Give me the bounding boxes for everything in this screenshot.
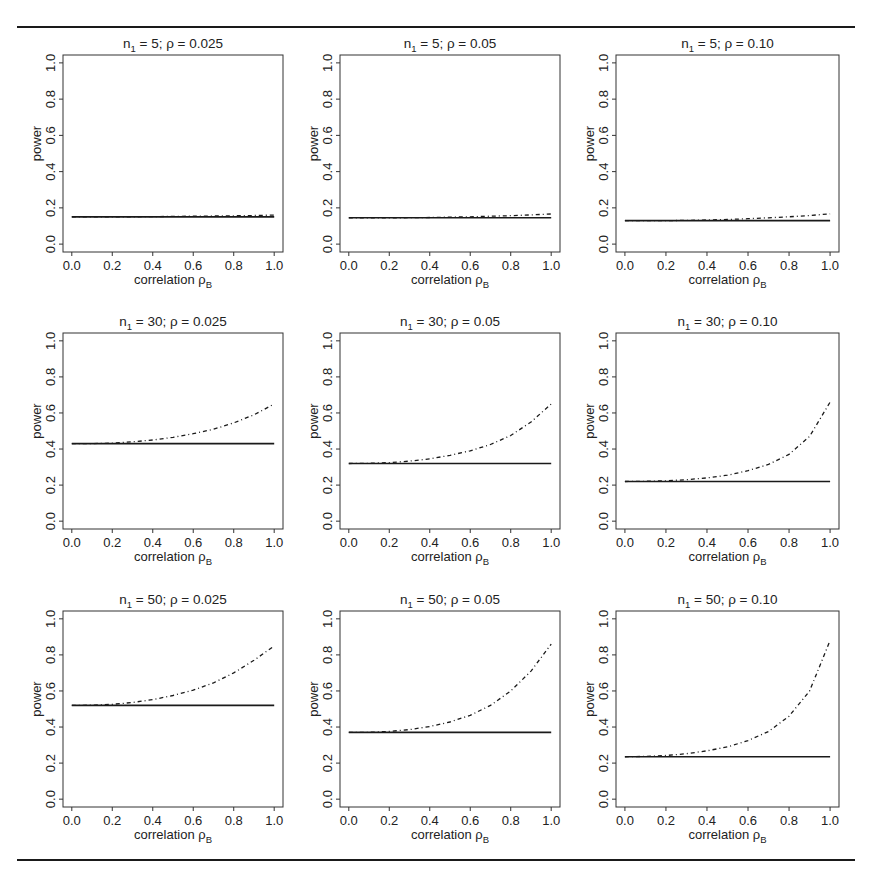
x-tick-label: 1.0 (542, 813, 560, 828)
y-tick-label: 0.2 (320, 199, 335, 217)
x-tick-label: 0.0 (340, 258, 358, 273)
y-tick-label: 0.4 (596, 163, 611, 181)
series-dashed (625, 641, 830, 757)
y-tick-label: 0.8 (43, 646, 58, 664)
y-tick-label: 0.2 (43, 199, 58, 217)
plot-frame (616, 55, 839, 252)
y-tick-label: 0.0 (596, 235, 611, 253)
panel-5: n1 = 30; ρ = 0.050.00.20.40.60.81.00.00.… (306, 314, 560, 567)
y-tick-label: 0.6 (320, 404, 335, 422)
x-tick-label: 0.6 (461, 813, 479, 828)
x-tick-label: 1.0 (265, 535, 283, 550)
y-tick-label: 0.2 (320, 476, 335, 494)
y-tick-label: 0.8 (596, 90, 611, 108)
x-tick-label: 0.6 (184, 535, 202, 550)
y-axis-label: power (306, 681, 321, 717)
series-dashed (349, 404, 551, 464)
panel-9: n1 = 50; ρ = 0.100.00.20.40.60.81.00.00.… (582, 592, 839, 845)
y-tick-label: 0.4 (43, 718, 58, 736)
x-axis-label: correlation ρB (134, 549, 212, 567)
x-tick-label: 0.4 (698, 535, 716, 550)
y-tick-label: 0.8 (596, 646, 611, 664)
x-axis-label: correlation ρB (411, 272, 489, 290)
x-tick-label: 0.0 (63, 535, 81, 550)
y-tick-label: 0.8 (43, 368, 58, 386)
y-tick-label: 1.0 (596, 332, 611, 350)
x-tick-label: 0.6 (184, 813, 202, 828)
plot-frame (63, 333, 283, 529)
x-tick-label: 0.2 (103, 258, 121, 273)
y-tick-label: 0.8 (320, 646, 335, 664)
x-tick-label: 0.4 (698, 813, 716, 828)
series-dashed (625, 402, 830, 481)
x-axis-label: correlation ρB (688, 272, 766, 290)
x-tick-label: 0.8 (225, 813, 243, 828)
y-tick-label: 0.4 (596, 718, 611, 736)
panel-title: n1 = 30; ρ = 0.025 (119, 314, 227, 332)
y-tick-label: 0.2 (596, 476, 611, 494)
x-tick-label: 0.6 (739, 535, 757, 550)
x-tick-label: 0.8 (780, 258, 798, 273)
y-tick-label: 1.0 (43, 332, 58, 350)
x-tick-label: 0.0 (63, 813, 81, 828)
y-tick-label: 0.8 (320, 90, 335, 108)
x-tick-label: 1.0 (542, 258, 560, 273)
panels-container: n1 = 5; ρ = 0.0250.00.20.40.60.81.00.00.… (29, 36, 839, 845)
x-tick-label: 0.2 (380, 258, 398, 273)
panel-title: n1 = 50; ρ = 0.05 (400, 592, 500, 610)
x-tick-label: 1.0 (542, 535, 560, 550)
series-dashed (72, 404, 274, 444)
y-axis-label: power (29, 681, 44, 717)
y-tick-label: 0.0 (320, 512, 335, 530)
y-tick-label: 0.0 (596, 790, 611, 808)
y-tick-label: 0.4 (320, 440, 335, 458)
x-tick-label: 0.6 (739, 813, 757, 828)
y-tick-label: 0.4 (320, 718, 335, 736)
x-tick-label: 0.2 (103, 535, 121, 550)
y-tick-label: 0.2 (596, 199, 611, 217)
x-tick-label: 0.4 (698, 258, 716, 273)
figure-3x3-power-grid: n1 = 5; ρ = 0.0250.00.20.40.60.81.00.00.… (0, 0, 870, 881)
panel-1: n1 = 5; ρ = 0.0250.00.20.40.60.81.00.00.… (29, 36, 283, 290)
x-tick-label: 0.8 (225, 258, 243, 273)
plot-frame (616, 333, 839, 529)
x-axis-label: correlation ρB (411, 549, 489, 567)
y-tick-label: 0.6 (320, 126, 335, 144)
y-tick-label: 0.4 (43, 440, 58, 458)
plot-frame (63, 55, 283, 252)
y-tick-label: 1.0 (320, 610, 335, 628)
x-tick-label: 0.0 (616, 813, 634, 828)
x-tick-label: 0.2 (380, 535, 398, 550)
y-tick-label: 0.6 (596, 682, 611, 700)
y-tick-label: 0.0 (320, 235, 335, 253)
panel-title: n1 = 50; ρ = 0.025 (119, 592, 227, 610)
y-tick-label: 0.8 (320, 368, 335, 386)
x-tick-label: 0.8 (502, 535, 520, 550)
plot-frame (340, 333, 560, 529)
y-tick-label: 0.2 (43, 754, 58, 772)
x-tick-label: 0.6 (739, 258, 757, 273)
y-tick-label: 0.8 (596, 368, 611, 386)
y-tick-label: 0.0 (320, 790, 335, 808)
x-tick-label: 1.0 (265, 813, 283, 828)
panel-7: n1 = 50; ρ = 0.0250.00.20.40.60.81.00.00… (29, 592, 283, 845)
x-tick-label: 0.6 (461, 535, 479, 550)
x-tick-label: 0.0 (340, 813, 358, 828)
x-tick-label: 1.0 (821, 813, 839, 828)
x-tick-label: 0.4 (144, 258, 162, 273)
x-tick-label: 0.8 (780, 535, 798, 550)
y-axis-label: power (582, 681, 597, 717)
panel-title: n1 = 50; ρ = 0.10 (677, 592, 777, 610)
y-tick-label: 0.8 (43, 90, 58, 108)
x-tick-label: 0.0 (616, 535, 634, 550)
x-tick-label: 0.2 (103, 813, 121, 828)
y-tick-label: 0.6 (43, 126, 58, 144)
panel-2: n1 = 5; ρ = 0.050.00.20.40.60.81.00.00.2… (306, 36, 560, 290)
x-tick-label: 0.8 (502, 258, 520, 273)
y-tick-label: 0.4 (43, 163, 58, 181)
y-tick-label: 0.6 (596, 126, 611, 144)
y-axis-label: power (582, 125, 597, 161)
panel-title: n1 = 30; ρ = 0.10 (677, 314, 777, 332)
panel-title: n1 = 30; ρ = 0.05 (400, 314, 500, 332)
x-tick-label: 0.8 (780, 813, 798, 828)
